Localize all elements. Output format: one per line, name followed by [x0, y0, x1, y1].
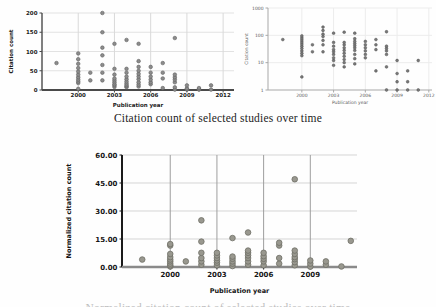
scatter-point	[343, 41, 346, 44]
scatter-point	[276, 255, 282, 261]
x-tick-label: 2012	[423, 93, 435, 98]
scatter-point	[125, 75, 129, 79]
scatter-point	[230, 235, 236, 241]
scatter-point	[417, 89, 420, 92]
scatter-point	[353, 40, 356, 43]
y-tick-label: 50	[30, 68, 38, 74]
scatter-point	[300, 35, 303, 38]
scatter-point	[76, 57, 80, 61]
x-tick-label: 2009	[179, 92, 194, 98]
scatter-point	[396, 89, 399, 92]
scatter-point	[55, 61, 59, 65]
scatter-point	[406, 89, 409, 92]
scatter-point	[343, 58, 346, 61]
y-axis-title: Citation count	[244, 33, 249, 65]
scatter-point	[183, 259, 189, 265]
x-axis-title: Publication year	[332, 100, 368, 105]
scatter-point	[343, 61, 346, 64]
scatter-point	[125, 38, 129, 42]
scatter-point	[343, 49, 346, 52]
scatter-point	[161, 61, 165, 65]
y-tick-label: 1000	[252, 6, 264, 11]
scatter-point	[101, 46, 105, 50]
x-tick-label: 2000	[71, 92, 86, 98]
scatter-point	[332, 32, 335, 35]
scatter-point	[343, 66, 346, 69]
scatter-point	[173, 36, 177, 40]
scatter-point	[343, 31, 346, 34]
scatter-point	[101, 54, 105, 58]
y-tick-label: 60.00	[95, 152, 117, 160]
x-axis-title: Publication year	[210, 287, 270, 295]
scatter-point	[396, 59, 399, 62]
scatter-point	[197, 86, 201, 90]
scatter-point	[332, 48, 335, 51]
scatter-point	[322, 39, 325, 42]
scatter-point	[101, 79, 105, 83]
scatter-point	[137, 42, 141, 46]
scatter-point	[406, 69, 409, 72]
x-tick-label: 2000	[296, 93, 308, 98]
scatter-point	[245, 248, 251, 254]
citation-count-log-canvas: 110100100020002003200620092012Publicatio…	[238, 0, 436, 110]
scatter-point	[113, 42, 117, 46]
x-tick-label: 2012	[215, 92, 230, 98]
scatter-point	[353, 49, 356, 52]
scatter-point	[322, 33, 325, 36]
scatter-point	[245, 230, 251, 236]
scatter-point	[167, 251, 173, 257]
x-tick-label: 2006	[254, 271, 274, 279]
scatter-point	[139, 257, 145, 263]
scatter-point	[343, 55, 346, 58]
scatter-point	[113, 67, 117, 71]
scatter-point	[311, 50, 314, 53]
scatter-point	[343, 46, 346, 49]
scatter-point	[292, 248, 298, 254]
x-tick-label: 2006	[143, 92, 158, 98]
scatter-point	[76, 52, 80, 56]
scatter-point	[76, 87, 80, 91]
scatter-point	[76, 66, 80, 70]
figure-caption-normalized: Normalized citation count of selected st…	[0, 302, 436, 307]
citation-count-linear-canvas: 05010015020020002003200620092012Publicat…	[0, 0, 240, 112]
x-tick-label: 2003	[207, 271, 227, 279]
scatter-point	[396, 72, 399, 75]
scatter-point	[353, 63, 356, 66]
x-axis-title: Publication year	[113, 102, 164, 109]
scatter-point	[185, 84, 189, 88]
scatter-point	[101, 63, 105, 67]
scatter-point	[311, 43, 314, 46]
scatter-point	[101, 30, 105, 34]
scatter-point	[113, 77, 117, 81]
x-tick-label: 2009	[391, 93, 403, 98]
citation-count-linear-plot: 05010015020020002003200620092012Publicat…	[8, 10, 234, 109]
scatter-point	[300, 76, 303, 79]
scatter-point	[343, 52, 346, 55]
scatter-point	[353, 57, 356, 60]
scatter-point	[101, 11, 105, 15]
normalized-citation-chart: 0.0015.0030.0045.0060.002000200320062009…	[62, 138, 362, 302]
scatter-point	[353, 53, 356, 56]
scatter-point	[353, 32, 356, 35]
x-tick-label: 2003	[107, 92, 122, 98]
scatter-point	[339, 264, 345, 270]
normalized-citation-count-canvas: 0.0015.0030.0045.0060.002000200320062009…	[62, 138, 362, 298]
scatter-point	[375, 43, 378, 46]
scatter-point	[332, 53, 335, 56]
scatter-point	[113, 73, 117, 77]
scatter-point	[173, 86, 177, 90]
scatter-point	[167, 241, 173, 247]
scatter-point	[332, 45, 335, 48]
scatter-point	[89, 79, 93, 83]
scatter-point	[137, 65, 141, 69]
y-tick-label: 45.00	[95, 180, 117, 188]
scatter-point	[364, 53, 367, 56]
citation-count-log-chart: 110100100020002003200620092012Publicatio…	[238, 0, 436, 114]
x-tick-label: 2003	[328, 93, 340, 98]
scatter-point	[137, 69, 141, 73]
scatter-point	[385, 89, 388, 92]
y-tick-label: 100	[26, 49, 38, 55]
scatter-point	[322, 26, 325, 29]
y-axis-title: Citation count	[8, 29, 14, 73]
scatter-point	[76, 62, 80, 66]
